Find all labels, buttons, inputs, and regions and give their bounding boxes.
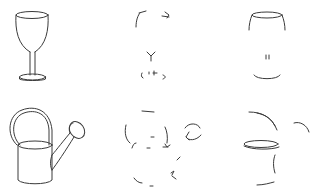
watering-can-partial-icon (212, 95, 318, 191)
wine-glass-fragments-icon (106, 0, 212, 96)
watering-can-full-sketch (0, 95, 106, 191)
wine-glass-partial-strokes (212, 0, 318, 95)
watering-can-sparse-strokes (106, 95, 212, 191)
watering-can-fragments-icon (106, 95, 212, 191)
wine-glass-sparse-strokes (106, 0, 212, 95)
sketch-grid (0, 0, 318, 191)
watering-can-icon (0, 95, 106, 191)
wine-glass-full-sketch (0, 0, 106, 95)
wine-glass-partial-icon (212, 0, 318, 96)
wine-glass-icon (0, 0, 106, 96)
watering-can-partial-strokes (212, 95, 318, 191)
